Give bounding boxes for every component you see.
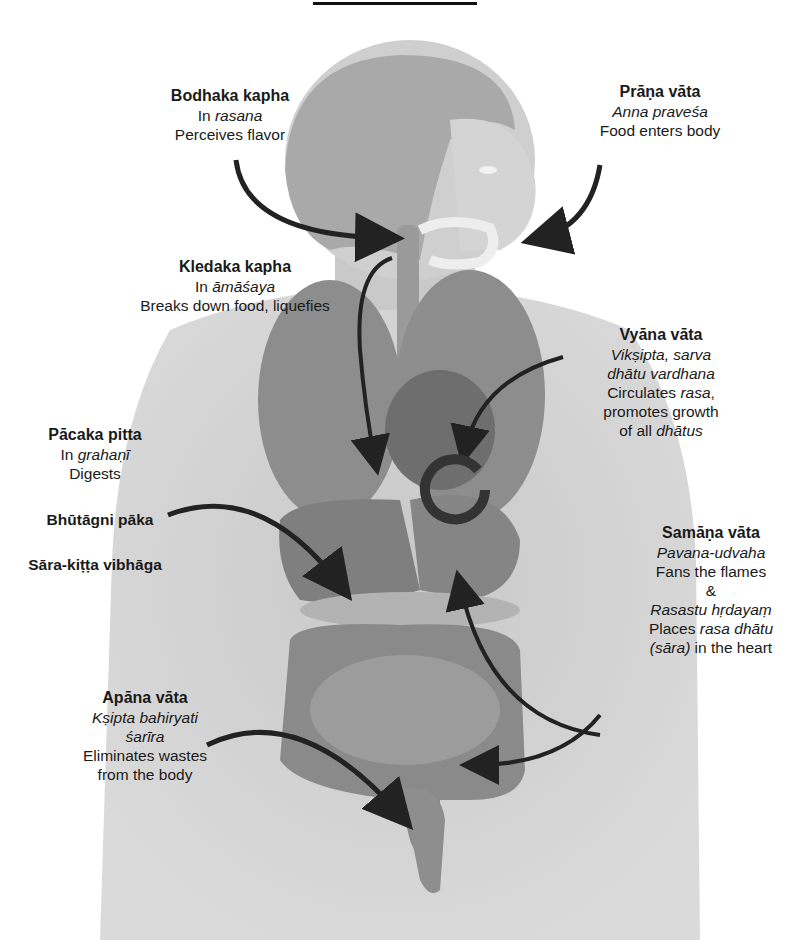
- label-kledaka-kapha: Kledaka kapha In āmāśaya Breaks down foo…: [110, 257, 360, 315]
- label-vyana-vata: Vyāna vāta Vikṣipta, sarva dhātu vardhan…: [566, 325, 756, 440]
- left-lung: [258, 280, 402, 520]
- heart: [385, 370, 495, 490]
- arrow-prana: [540, 165, 600, 238]
- label-bhutagni-paka: Bhūtāgni pāka: [30, 510, 170, 529]
- label-sara-kitta-vibhaga: Sāra-kiṭṭa vibhāga: [12, 555, 178, 574]
- eye: [479, 166, 497, 174]
- label-pacaka-pitta: Pācaka pitta In grahaṇī Digests: [20, 425, 170, 483]
- label-bodhaka-kapha: Bodhaka kapha In rasana Perceives flavor: [140, 86, 320, 144]
- pancreas: [300, 592, 520, 628]
- digestion-diagram: Bodhaka kapha In rasana Perceives flavor…: [0, 0, 802, 940]
- label-samana-vata: Samāṇa vāta Pavana-udvaha Fans the flame…: [620, 523, 802, 657]
- label-apana-vata: Apāna vāta Kṣipta bahiryati śarīra Elimi…: [70, 688, 220, 784]
- liver: [279, 499, 420, 603]
- label-prana-vata: Prāṇa vāta Anna praveśa Food enters body: [560, 82, 760, 140]
- small-intestine: [310, 655, 500, 765]
